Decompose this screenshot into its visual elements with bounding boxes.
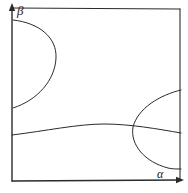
beta-axis-arrowhead [9, 3, 15, 11]
alpha-axis-line [12, 180, 180, 181]
phase-diagram-figure: β α [0, 0, 188, 193]
left-lobe-curve [13, 20, 56, 108]
phase-diagram-canvas [0, 0, 188, 193]
alpha-axis-label: α [157, 168, 163, 180]
beta-axis-label: β [17, 4, 23, 17]
frame-top-border [12, 8, 180, 9]
horizontal-transition-curve [12, 124, 181, 135]
